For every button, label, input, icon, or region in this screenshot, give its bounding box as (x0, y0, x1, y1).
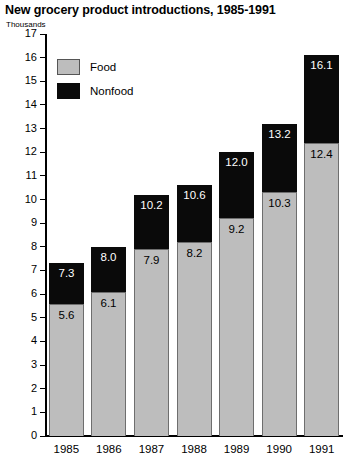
bar-value-total: 12.0 (220, 156, 253, 168)
y-axis-tick (40, 436, 45, 437)
y-axis-tick (40, 317, 45, 318)
y-axis-tick (40, 365, 45, 366)
bar-segment-food: 10.3 (262, 192, 297, 436)
y-axis-label: 2 (7, 383, 37, 394)
bar-segment-food: 6.1 (91, 292, 126, 436)
bar-value-total: 10.6 (178, 189, 211, 201)
y-axis-tick (40, 294, 45, 295)
bar-value-food: 7.9 (135, 254, 168, 266)
bar-1989: 12.09.2 (219, 152, 254, 436)
bar-segment-nonfood: 13.2 (262, 124, 297, 193)
y-axis-tick (40, 412, 45, 413)
bar-1988: 10.68.2 (177, 185, 212, 436)
y-axis-tick (40, 81, 45, 82)
y-axis-label: 13 (7, 123, 37, 134)
bar-value-total: 10.2 (135, 199, 168, 211)
bar-segment-food: 7.9 (134, 249, 169, 436)
y-axis-label: 3 (7, 359, 37, 370)
bar-value-total: 7.3 (50, 267, 83, 279)
bar-segment-nonfood: 16.1 (304, 55, 339, 142)
y-axis-tick (40, 223, 45, 224)
bar-segment-nonfood: 10.2 (134, 195, 169, 249)
y-axis-tick (40, 128, 45, 129)
y-axis-line (45, 34, 47, 437)
x-axis-label-1991: 1991 (292, 443, 349, 455)
bar-value-food: 6.1 (92, 297, 125, 309)
y-axis-label: 1 (7, 406, 37, 417)
bar-segment-nonfood: 12.0 (219, 152, 254, 218)
y-axis-label: 8 (7, 241, 37, 252)
bar-segment-food: 12.4 (304, 143, 339, 436)
bar-value-food: 10.3 (263, 197, 296, 209)
bar-segment-food: 8.2 (177, 242, 212, 436)
y-axis-tick (40, 57, 45, 58)
legend-label-nonfood: Nonfood (90, 83, 133, 99)
bar-1985: 7.35.6 (49, 263, 84, 436)
y-axis-tick (40, 152, 45, 153)
y-axis-tick (40, 246, 45, 247)
bar-1990: 13.210.3 (262, 124, 297, 436)
legend-swatch-food-icon (57, 59, 80, 75)
y-axis-label: 16 (7, 52, 37, 63)
y-axis-label: 12 (7, 146, 37, 157)
bar-value-total: 16.1 (305, 59, 338, 71)
y-axis-label: 7 (7, 264, 37, 275)
bar-value-total: 13.2 (263, 128, 296, 140)
bar-segment-food: 5.6 (49, 304, 84, 436)
y-axis-tick (40, 388, 45, 389)
y-axis-label: 11 (7, 170, 37, 181)
y-axis-label: 15 (7, 75, 37, 86)
bar-segment-nonfood: 7.3 (49, 263, 84, 303)
y-axis-label: 10 (7, 194, 37, 205)
bar-value-food: 12.4 (305, 148, 338, 160)
bar-value-food: 8.2 (178, 247, 211, 259)
bar-value-total: 8.0 (92, 251, 125, 263)
bar-segment-nonfood: 8.0 (91, 247, 126, 292)
chart-container: New grocery product introductions, 1985-… (0, 0, 349, 467)
bar-segment-nonfood: 10.6 (177, 185, 212, 242)
y-axis-label: 4 (7, 335, 37, 346)
y-axis-tick (40, 270, 45, 271)
y-axis-tick (40, 104, 45, 105)
y-axis-tick (40, 199, 45, 200)
y-axis-tick (40, 175, 45, 176)
y-axis-label: 9 (7, 217, 37, 228)
bar-value-food: 9.2 (220, 223, 253, 235)
bar-1986: 8.06.1 (91, 247, 126, 436)
y-axis-tick (40, 341, 45, 342)
legend-swatch-nonfood-icon (57, 83, 80, 99)
y-axis-label: 5 (7, 312, 37, 323)
bar-value-food: 5.6 (50, 309, 83, 321)
bar-1987: 10.27.9 (134, 195, 169, 436)
y-axis-label: 14 (7, 99, 37, 110)
y-axis-label: 0 (7, 430, 37, 441)
y-axis-label: 6 (7, 288, 37, 299)
y-axis-tick (40, 34, 45, 35)
bar-segment-food: 9.2 (219, 218, 254, 436)
legend-label-food: Food (90, 59, 116, 75)
chart-title: New grocery product introductions, 1985-… (5, 3, 276, 17)
y-axis-label: 17 (7, 28, 37, 39)
bar-1991: 16.112.4 (304, 55, 339, 436)
